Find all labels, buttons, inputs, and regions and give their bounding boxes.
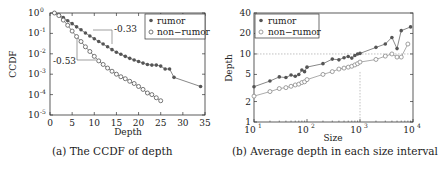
data-point: [123, 55, 127, 59]
data-point: [350, 56, 354, 60]
y-tick-exp: -2: [40, 47, 46, 54]
data-point: [399, 55, 403, 59]
legend-label-rumor: rumor: [157, 16, 186, 26]
slope-label-nonrumor: -0.53: [53, 56, 76, 66]
left-caption: (a) The CCDF of depth: [52, 145, 172, 157]
y-tick-exp: -4: [40, 88, 46, 95]
x-tick-exp: 3: [364, 122, 368, 129]
data-point: [346, 55, 350, 59]
data-point: [374, 46, 378, 50]
data-point: [268, 90, 272, 94]
data-point: [168, 67, 172, 71]
data-point: [284, 76, 288, 80]
y-tick-label: 10: [28, 90, 40, 100]
data-point: [70, 29, 74, 33]
data-point: [115, 50, 119, 54]
data-point: [337, 67, 341, 71]
data-point: [141, 61, 145, 65]
legend-marker-nonrumor: [259, 30, 263, 34]
data-point: [137, 84, 141, 88]
data-point: [305, 65, 309, 69]
data-point: [252, 94, 256, 98]
data-point: [84, 31, 88, 35]
data-point: [66, 23, 70, 27]
data-point: [159, 99, 163, 103]
data-point: [358, 60, 362, 64]
data-point: [119, 75, 123, 79]
data-point: [52, 11, 56, 15]
legend-label-rumor: rumor: [268, 16, 297, 26]
data-point: [293, 74, 297, 78]
data-point: [150, 63, 154, 67]
x-tick-exp: 4: [417, 122, 421, 129]
data-point: [92, 54, 96, 58]
data-point: [101, 42, 105, 46]
data-point: [97, 59, 101, 63]
legend-marker-rumor: [149, 19, 153, 23]
data-point: [330, 70, 334, 74]
data-point: [79, 40, 83, 44]
data-point: [75, 25, 79, 29]
data-point: [88, 34, 92, 38]
data-point: [128, 79, 132, 83]
data-point: [83, 45, 87, 49]
slope-bracket-rumor: [93, 30, 112, 44]
data-point: [97, 40, 101, 44]
data-point: [390, 52, 394, 56]
x-tick-label: 10: [89, 118, 101, 128]
legend-marker-nonrumor: [149, 30, 153, 34]
data-point: [154, 63, 158, 67]
legend-label-nonrumor: non−rumor: [157, 27, 211, 37]
data-point: [342, 66, 346, 70]
data-point: [92, 37, 96, 41]
ccdf-chart: 10010-110-210-310-410-5 05101520253035 C…: [8, 6, 211, 137]
right-caption: (b) Average depth in each size interval: [232, 145, 438, 157]
data-point: [119, 52, 123, 56]
x-tick-label: 10: [244, 125, 256, 135]
left-x-axis-label: Depth: [114, 127, 142, 137]
x-tick-label: 25: [155, 118, 167, 128]
x-tick-exp: 1: [258, 122, 262, 129]
legend-label-nonrumor: non−rumor: [268, 27, 322, 37]
y-tick-label: 20: [240, 28, 252, 38]
data-point: [383, 42, 387, 46]
data-point: [342, 56, 346, 60]
data-point: [141, 87, 145, 91]
data-point: [106, 66, 110, 70]
x-tick-label: 30: [177, 118, 189, 128]
data-point: [199, 85, 203, 89]
y-tick-label: 2: [245, 97, 251, 107]
data-point: [399, 29, 403, 33]
x-tick-label: 0: [47, 118, 53, 128]
right-x-axis-label: Size: [323, 133, 342, 143]
data-point: [132, 58, 136, 62]
data-point: [321, 72, 325, 76]
data-point: [303, 70, 307, 74]
depth-size-chart: 125102040 101102103104 Depth Size rumor …: [224, 8, 421, 143]
data-point: [132, 82, 136, 86]
data-point: [409, 25, 413, 29]
data-point: [61, 18, 65, 22]
data-point: [70, 22, 74, 26]
y-tick-label: 10: [28, 8, 40, 18]
data-point: [284, 86, 288, 90]
data-point: [305, 78, 309, 82]
right-y-axis-label: Depth: [224, 54, 234, 82]
y-tick-exp: -5: [40, 108, 46, 115]
data-point: [57, 14, 61, 18]
y-tick-label: 5: [245, 69, 251, 79]
data-point: [101, 62, 105, 66]
data-point: [172, 76, 176, 80]
x-tick-label: 35: [199, 118, 211, 128]
data-point: [154, 96, 158, 100]
data-point: [88, 49, 92, 53]
data-point: [146, 63, 150, 67]
data-point: [268, 79, 272, 83]
data-point: [114, 72, 118, 76]
x-tick-label: 10: [403, 125, 415, 135]
data-point: [145, 91, 149, 95]
data-point: [289, 84, 293, 88]
y-tick-exp: 0: [40, 6, 44, 13]
right-legend: rumor non−rumor: [255, 14, 322, 38]
data-point: [123, 77, 127, 81]
